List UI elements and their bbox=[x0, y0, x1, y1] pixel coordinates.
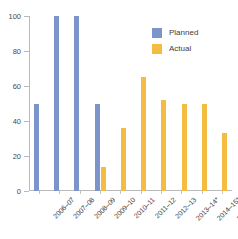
bar-actual-201415 bbox=[202, 104, 207, 192]
x-axis-label-2: 2008–09 bbox=[93, 196, 117, 220]
x-tick-3 bbox=[100, 191, 101, 194]
bar-actual-201213 bbox=[161, 100, 166, 191]
x-tick-4 bbox=[120, 191, 121, 194]
x-tick-8 bbox=[202, 191, 203, 194]
legend-item-actual: Actual bbox=[152, 44, 198, 54]
bar-actual-201314 bbox=[182, 104, 187, 192]
x-tick-6 bbox=[161, 191, 162, 194]
legend-swatch-actual-icon bbox=[152, 44, 162, 54]
x-axis-label-5: 2011–12 bbox=[153, 196, 176, 219]
bar-planned-200607 bbox=[34, 104, 39, 192]
y-axis-label-80: 80 bbox=[0, 47, 21, 56]
y-axis-label-20: 20 bbox=[0, 152, 21, 161]
x-axis-label-0: 2006–07 bbox=[52, 196, 76, 220]
y-axis-label-100: 100 bbox=[0, 12, 21, 21]
legend-item-planned: Planned bbox=[152, 28, 198, 38]
bar-actual-201112 bbox=[141, 77, 146, 191]
bar-actual-200910 bbox=[101, 167, 106, 192]
x-tick-1 bbox=[59, 191, 60, 194]
bar-actual-201011 bbox=[121, 128, 126, 191]
x-tick-5 bbox=[141, 191, 142, 194]
legend-label-planned: Planned bbox=[169, 28, 198, 38]
legend-swatch-planned-icon bbox=[152, 28, 162, 38]
bar-chart: 100 80 60 40 20 0 2006–072007–082008–092… bbox=[0, 0, 238, 239]
x-tick-9 bbox=[222, 191, 223, 194]
x-tick-2 bbox=[80, 191, 81, 194]
x-tick-7 bbox=[181, 191, 182, 194]
bar-actual-201516 bbox=[222, 133, 227, 191]
y-tick-0 bbox=[24, 191, 29, 192]
x-tick-0 bbox=[39, 191, 40, 194]
bar-planned-200708 bbox=[54, 16, 59, 191]
x-axis-label-1: 2007–08 bbox=[72, 196, 96, 220]
y-axis-label-40: 40 bbox=[0, 117, 21, 126]
y-axis-label-0: 0 bbox=[0, 187, 21, 196]
bar-planned-200809 bbox=[74, 16, 79, 191]
y-axis-label-60: 60 bbox=[0, 82, 21, 91]
bars-layer bbox=[29, 16, 232, 191]
bar-planned-200910 bbox=[95, 104, 100, 192]
chart-legend: Planned Actual bbox=[152, 28, 198, 54]
legend-label-actual: Actual bbox=[169, 44, 191, 54]
